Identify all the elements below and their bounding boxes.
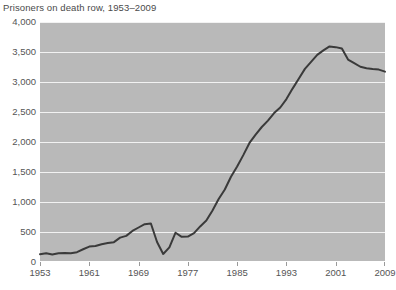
x-axis: 19531961196919771985199320012009	[40, 268, 385, 282]
x-axis-tick	[40, 262, 41, 266]
x-axis-tick-label: 1985	[227, 268, 248, 278]
y-axis-tick-label: 3,000	[0, 77, 36, 87]
x-axis-tick-label: 2009	[374, 268, 395, 278]
x-axis-tick	[384, 262, 385, 266]
y-axis-tick-label: 0	[0, 257, 36, 267]
y-axis-tick-label: 2,500	[0, 107, 36, 117]
x-axis-tick	[188, 262, 189, 266]
y-axis: 05001,0001,5002,0002,5003,0003,5004,000	[0, 22, 36, 262]
x-axis-tick-label: 1969	[128, 268, 149, 278]
y-axis-tick-label: 1,500	[0, 167, 36, 177]
y-axis-tick-label: 4,000	[0, 17, 36, 27]
x-axis-tick-label: 1993	[276, 268, 297, 278]
x-axis-tick-label: 1977	[177, 268, 198, 278]
y-axis-tick-label: 1,000	[0, 197, 36, 207]
x-axis-tick	[336, 262, 337, 266]
x-axis-tick	[89, 262, 90, 266]
x-axis-tick	[139, 262, 140, 266]
y-axis-tick-label: 500	[0, 227, 36, 237]
x-axis-tick-label: 1961	[79, 268, 100, 278]
x-axis-tick-label: 2001	[325, 268, 346, 278]
x-axis-tick	[237, 262, 238, 266]
x-axis-tick	[286, 262, 287, 266]
cropped-caption	[3, 285, 203, 290]
chart-figure: Prisoners on death row, 1953–2009 05001,…	[0, 0, 396, 290]
y-axis-tick-label: 2,000	[0, 137, 36, 147]
x-axis-tick-label: 1953	[29, 268, 50, 278]
page-title: Prisoners on death row, 1953–2009	[3, 2, 156, 13]
line-series	[40, 22, 385, 262]
y-axis-tick-label: 3,500	[0, 47, 36, 57]
plot-frame	[40, 22, 385, 262]
